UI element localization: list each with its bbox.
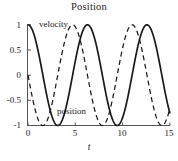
position-curve bbox=[28, 25, 170, 126]
x-tick-label-5: 5 bbox=[65, 129, 85, 138]
y-tick-label-0-5: 0.5 bbox=[2, 46, 21, 55]
x-axis-title: t bbox=[0, 142, 178, 153]
velocity-curve-label: velocity bbox=[39, 20, 68, 29]
position-curve-label: position bbox=[57, 107, 86, 116]
velocity-curve bbox=[28, 25, 170, 126]
x-tick-label-0: 0 bbox=[18, 129, 38, 138]
x-tick-label-15: 15 bbox=[159, 129, 178, 138]
y-tick-label-1: 1 bbox=[2, 21, 21, 30]
y-tick-label-0: 0 bbox=[2, 71, 21, 80]
x-tick-label-10: 10 bbox=[112, 129, 132, 138]
y-tick-label-neg-0-5: -0.5 bbox=[2, 96, 21, 105]
position-velocity-chart: Position 1 0.5 0 -0.5 -1 0 5 10 15 bbox=[0, 0, 178, 161]
